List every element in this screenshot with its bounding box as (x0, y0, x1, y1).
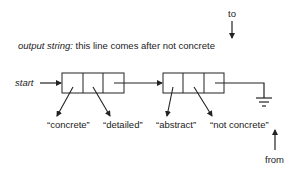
pointer-detailed-arrow (93, 87, 110, 116)
output-string-line: output string: this line comes after not… (18, 41, 215, 51)
ground-icon (256, 98, 272, 106)
string-detailed: “detailed” (103, 120, 143, 130)
from-label: from (265, 155, 284, 165)
start-label: start (15, 78, 33, 88)
string-not-concrete: “not concrete” (210, 120, 269, 130)
string-abstract: “abstract” (156, 120, 196, 130)
pointer-not-concrete-arrow (194, 87, 212, 116)
pointer-concrete-arrow (57, 87, 73, 116)
string-concrete: “concrete” (47, 120, 90, 130)
output-string-label: output string: (18, 40, 73, 51)
linked-list-diagram (0, 0, 296, 174)
pointer-abstract-arrow (167, 87, 173, 116)
null-pointer-line (215, 83, 264, 98)
output-string-value: this line comes after not concrete (73, 40, 215, 51)
to-label: to (228, 9, 236, 19)
